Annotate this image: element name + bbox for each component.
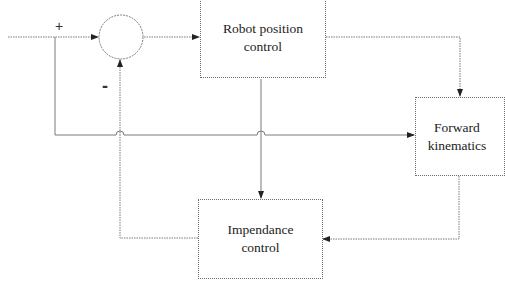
fk-to-impedance-line bbox=[323, 176, 459, 239]
impedance-control-block: Impendance control bbox=[198, 199, 323, 279]
summing-junction-circle bbox=[99, 15, 143, 59]
block-label-line1: Impendance bbox=[228, 221, 294, 239]
block-label-line1: Forward bbox=[428, 119, 486, 137]
block-label-line2: control bbox=[223, 38, 303, 56]
robot-to-fk-line bbox=[326, 37, 460, 96]
forward-kinematics-block: Forward kinematics bbox=[415, 97, 505, 176]
block-label-line2: control bbox=[228, 239, 294, 257]
robot-position-control-block: Robot position control bbox=[200, 0, 326, 78]
block-label-line2: kinematics bbox=[428, 137, 486, 155]
minus-sign: - bbox=[102, 76, 108, 97]
block-label-line1: Robot position bbox=[223, 20, 303, 38]
plus-sign: + bbox=[55, 18, 63, 34]
feedback-line bbox=[120, 60, 198, 238]
